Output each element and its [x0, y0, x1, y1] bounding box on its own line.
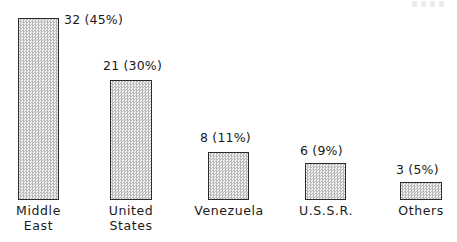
value-label-ussr: 6 (9%)	[300, 143, 343, 158]
bar-venezuela	[208, 152, 249, 200]
value-label-venezuela: 8 (11%)	[200, 130, 251, 145]
category-label-line1: Middle	[16, 203, 61, 218]
value-label-united-states: 21 (30%)	[103, 58, 162, 73]
category-label-line1: United	[109, 203, 154, 218]
category-label-others: Others	[384, 203, 457, 218]
category-label-united-states: United States	[92, 203, 170, 233]
plot-area: 32 (45%) Middle East 21 (30%) United Sta…	[0, 0, 457, 242]
bar-chart: 32 (45%) Middle East 21 (30%) United Sta…	[0, 0, 457, 242]
category-label-line1: Venezuela	[194, 203, 264, 218]
bar-others	[400, 182, 442, 200]
category-label-venezuela: Venezuela	[188, 203, 270, 218]
value-label-middle-east: 32 (45%)	[64, 12, 123, 27]
category-label-line1: Others	[398, 203, 444, 218]
category-label-line1: U.S.S.R.	[299, 203, 353, 218]
category-label-line2: East	[0, 218, 77, 233]
category-label-line2: States	[92, 218, 170, 233]
bar-ussr	[305, 163, 346, 200]
bar-middle-east	[18, 18, 59, 200]
bar-united-states	[110, 80, 152, 200]
value-label-others: 3 (5%)	[396, 162, 439, 177]
category-label-ussr: U.S.S.R.	[288, 203, 364, 218]
category-label-middle-east: Middle East	[0, 203, 77, 233]
